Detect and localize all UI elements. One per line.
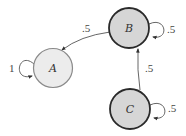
node-a-label: A xyxy=(48,62,57,75)
edge-b-to-a xyxy=(62,32,110,50)
edge-c-to-b xyxy=(138,49,140,90)
edge-label-c-self: .5 xyxy=(168,102,177,114)
markov-chain-diagram: .5 .5 1 .5 .5 A B C xyxy=(0,0,186,136)
edge-label-a-self: 1 xyxy=(9,62,15,74)
self-loop-c xyxy=(150,103,165,118)
node-c: C xyxy=(110,89,150,129)
node-a: A xyxy=(34,49,73,88)
edge-label-b-to-a: .5 xyxy=(82,22,91,34)
edge-label-c-to-b: .5 xyxy=(145,62,154,74)
self-loop-b xyxy=(149,22,164,37)
node-b: B xyxy=(109,8,149,48)
node-c-label: C xyxy=(126,103,135,116)
node-b-label: B xyxy=(124,22,133,35)
self-loop-a xyxy=(19,60,34,76)
edge-label-b-self: .5 xyxy=(167,23,176,35)
